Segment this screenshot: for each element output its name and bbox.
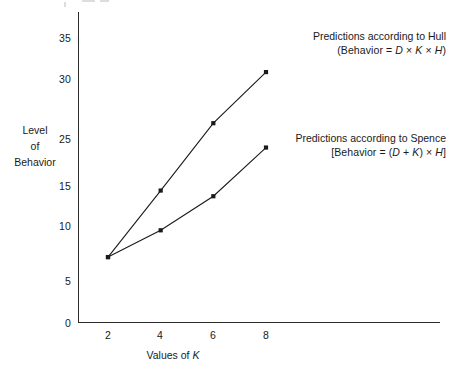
series-markers-hull xyxy=(106,70,268,259)
data-point xyxy=(106,255,110,259)
formula-close: ) xyxy=(442,44,446,56)
series-line-hull xyxy=(108,72,266,257)
formula-operator-1: + xyxy=(400,146,412,158)
formula-variable-d: D xyxy=(395,44,403,56)
formula-operator-2: ) × xyxy=(419,146,435,158)
data-point xyxy=(159,188,163,192)
series-markers-spence xyxy=(106,145,268,259)
annotation-hull: Predictions according to Hull (Behavior … xyxy=(313,29,446,57)
annotation-hull-formula: (Behavior = D × K × H) xyxy=(313,43,446,57)
data-point xyxy=(264,70,268,74)
formula-close: ] xyxy=(443,146,446,158)
annotation-spence-title: Predictions according to Spence xyxy=(295,131,446,145)
formula-variable-d: D xyxy=(392,146,400,158)
annotation-spence: Predictions according to Spence [Behavio… xyxy=(295,131,446,159)
chart-figure: 35 30 25 15 10 5 0 Level of Behavior 2 4… xyxy=(0,0,454,372)
formula-variable-h: H xyxy=(435,146,443,158)
formula-open: [Behavior = ( xyxy=(331,146,392,158)
data-point xyxy=(159,228,163,232)
data-point xyxy=(211,121,215,125)
series-line-spence xyxy=(108,148,266,258)
formula-open: (Behavior = xyxy=(337,44,395,56)
annotation-hull-title: Predictions according to Hull xyxy=(313,29,446,43)
formula-operator-1: × xyxy=(403,44,415,56)
data-point xyxy=(264,145,268,149)
formula-operator-2: × xyxy=(422,44,434,56)
data-point xyxy=(211,194,215,198)
annotation-spence-formula: [Behavior = (D + K) × H] xyxy=(295,145,446,159)
